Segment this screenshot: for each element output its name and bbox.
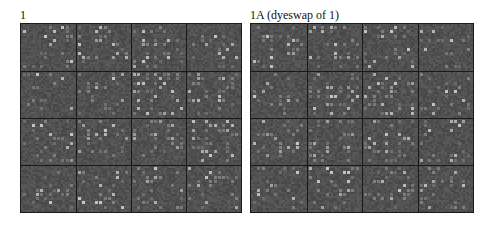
panel-title: 1 (20, 9, 26, 21)
microarray-grid (20, 23, 242, 213)
microarray-canvas (251, 24, 473, 212)
microarray-canvas (21, 24, 241, 212)
microarray-grid (250, 23, 474, 213)
panel-title: 1A (dyeswap of 1) (250, 9, 339, 21)
